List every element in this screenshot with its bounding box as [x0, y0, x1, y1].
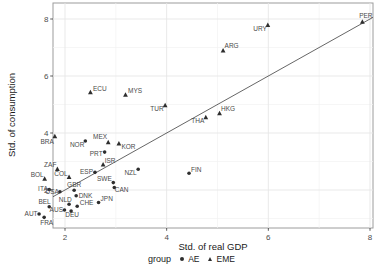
triangle-marker-icon — [208, 257, 212, 261]
point-label-BOL: BOL — [31, 171, 44, 178]
data-point-NLD — [67, 202, 71, 206]
point-label-BRA: BRA — [40, 138, 54, 145]
point-label-COL: COL — [54, 170, 68, 177]
point-label-CHE: CHE — [80, 199, 94, 206]
point-label-DNK: DNK — [79, 192, 93, 199]
point-label-KOR: KOR — [121, 143, 135, 150]
point-label-DEU: DEU — [65, 211, 79, 218]
x-axis-title: Std. of real GDP — [53, 241, 373, 252]
point-label-FRA: FRA — [40, 219, 54, 226]
point-label-TUR: TUR — [150, 105, 164, 112]
point-label-FIN: FIN — [191, 166, 202, 173]
data-point-AUT — [37, 212, 41, 216]
point-label-CAN: CAN — [115, 186, 129, 193]
point-label-NLD: NLD — [59, 196, 72, 203]
data-point-DNK — [74, 194, 78, 198]
data-point-GBR — [72, 188, 76, 192]
legend-item-eme-label: EME — [216, 254, 234, 264]
data-point-ESP — [93, 171, 97, 175]
legend-item-eme: EME — [208, 254, 234, 264]
data-point-NZL — [136, 167, 140, 171]
data-point-PRT — [103, 150, 107, 154]
data-point-CHE — [75, 204, 79, 208]
point-label-ISR: ISR — [105, 157, 116, 164]
data-point-SWE — [111, 181, 115, 185]
y-tick-label: 8 — [44, 15, 49, 24]
point-label-THA: THA — [191, 117, 205, 124]
point-label-ESP: ESP — [80, 168, 93, 175]
point-label-HKG: HKG — [221, 105, 235, 112]
plot-canvas: 24682468NORPRTESPNZLFINSWECANITAUSAGBRDN… — [0, 0, 383, 275]
point-label-AUS: AUS — [50, 206, 64, 213]
point-label-USA: USA — [46, 188, 60, 195]
y-axis-title: Std. of consumption — [6, 73, 17, 157]
scatter-plot-figure: 24682468NORPRTESPNZLFINSWECANITAUSAGBRDN… — [0, 0, 383, 275]
y-tick-label: 6 — [44, 72, 49, 81]
point-label-URY: URY — [253, 25, 267, 32]
point-label-MYS: MYS — [128, 87, 143, 94]
point-label-AUT: AUT — [25, 210, 38, 217]
legend: group AE EME — [0, 254, 383, 264]
point-label-PER: PER — [359, 12, 373, 19]
point-label-BEL: BEL — [38, 198, 51, 205]
point-label-ECU: ECU — [93, 85, 107, 92]
point-label-NOR: NOR — [70, 141, 85, 148]
point-label-ARG: ARG — [225, 42, 239, 49]
y-tick-label: 4 — [44, 129, 49, 138]
circle-marker-icon — [180, 257, 184, 261]
point-label-SWE: SWE — [97, 175, 112, 182]
point-label-GBR: GBR — [67, 181, 81, 188]
legend-item-ae: AE — [180, 254, 199, 264]
point-label-JPN: JPN — [101, 195, 114, 202]
point-label-NZL: NZL — [124, 169, 137, 176]
legend-item-ae-label: AE — [188, 254, 199, 264]
point-label-MEX: MEX — [93, 133, 108, 140]
legend-title: group — [148, 254, 171, 264]
point-label-ZAF: ZAF — [44, 161, 56, 168]
point-label-PRT: PRT — [90, 150, 103, 157]
